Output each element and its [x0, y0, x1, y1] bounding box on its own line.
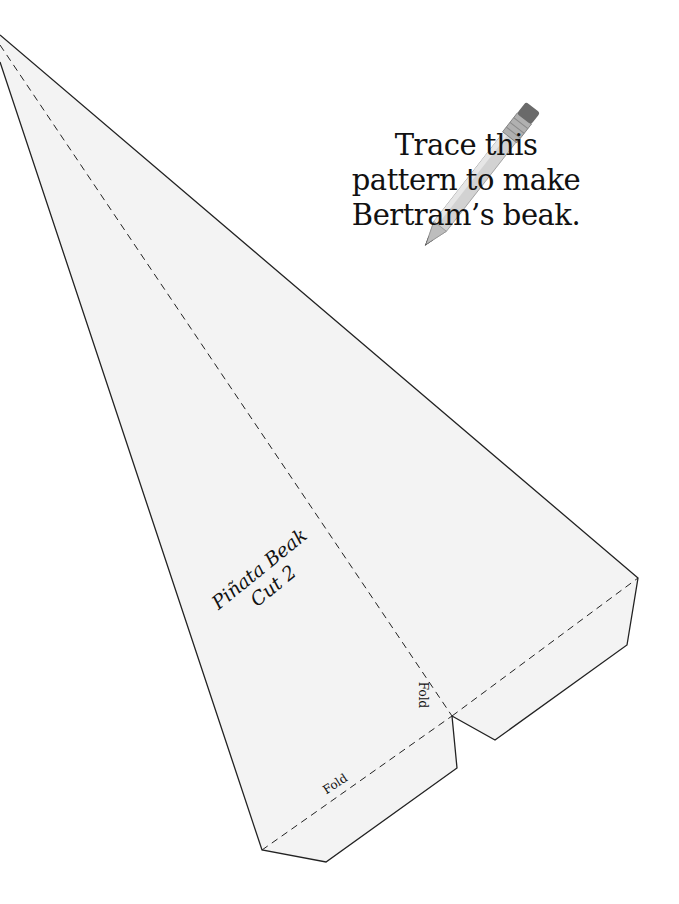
trace-instruction: Trace this pattern to make Bertram’s bea…	[346, 128, 586, 233]
instruction-line-3: Bertram’s beak.	[346, 198, 586, 233]
fold-label-right: Fold	[416, 682, 430, 708]
pattern-page: Trace this pattern to make Bertram’s bea…	[0, 0, 679, 904]
instruction-line-2: pattern to make	[346, 163, 586, 198]
instruction-line-1: Trace this	[346, 128, 586, 163]
